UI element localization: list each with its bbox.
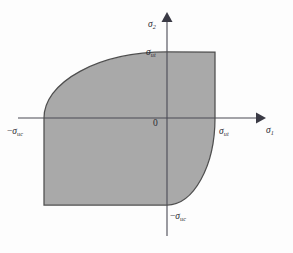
failure-envelope-region — [44, 52, 215, 205]
sigma-ut-horizontal-subscript: ut — [224, 130, 229, 137]
neg-sigma-uc-vertical-subscript: uc — [180, 215, 186, 222]
sigma-2-axis-arrowhead — [162, 12, 173, 22]
tick-label-neg-sigma-uc-vertical: −σuc — [170, 206, 186, 222]
neg-sigma-uc-horizontal-subscript: uc — [17, 130, 23, 137]
tick-label-sigma-ut-vertical: σut — [146, 42, 156, 58]
tick-label-neg-sigma-uc-horizontal: −σuc — [7, 121, 23, 137]
sigma-ut-vertical-subscript: ut — [151, 51, 156, 58]
sigma-ut-horizontal-symbol: σ — [219, 126, 224, 136]
sigma-1-axis-label: σ1 — [266, 120, 274, 136]
tick-label-sigma-ut-horizontal: σut — [219, 121, 229, 137]
sigma-1-symbol: σ — [266, 125, 271, 135]
sigma-1-axis-arrowhead — [256, 113, 266, 124]
sigma-2-symbol: σ — [148, 19, 153, 29]
sigma-2-subscript: 2 — [153, 23, 156, 30]
plot-canvas — [0, 0, 293, 253]
sigma-2-axis-label: σ2 — [148, 14, 156, 30]
failure-envelope-figure: σ2 σ1 σut σut −σuc −σuc 0 — [0, 0, 293, 253]
sigma-ut-vertical-symbol: σ — [146, 47, 151, 57]
origin-label: 0 — [153, 119, 158, 129]
sigma-1-subscript: 1 — [271, 129, 274, 136]
